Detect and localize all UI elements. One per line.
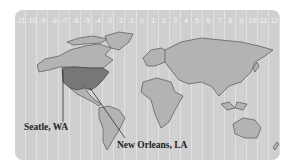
australia: [233, 118, 261, 138]
new-zealand: [273, 142, 279, 150]
new-orleans-label: New Orleans, LA: [117, 140, 187, 150]
africa: [141, 78, 183, 128]
usa-highlight: [62, 67, 109, 90]
indonesia: [221, 102, 247, 110]
world-timezone-map: -11 -10 -9 -8 -7 -6 -5 -4 -3 -2 -1 0 1 2…: [15, 10, 280, 160]
seattle-label: Seatle, WA: [24, 122, 68, 132]
world-map-shapes: [15, 10, 280, 160]
arctic-islands: [67, 36, 107, 45]
